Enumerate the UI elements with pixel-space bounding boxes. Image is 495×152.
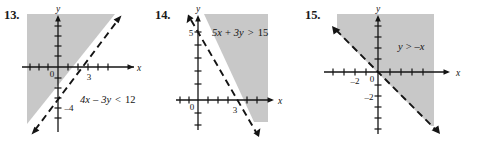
ineq-lhs-a-13: 4x xyxy=(80,94,90,105)
y-intercept-label-13: –4 xyxy=(64,103,75,113)
y-tick-label-15: –2 xyxy=(364,92,374,102)
problem-panel-14: 14. xyxy=(150,0,300,152)
y-intercept-label-14: 5 xyxy=(189,28,194,38)
y-axis-label-14: y xyxy=(195,4,201,14)
inequality-label-14: 5x+3y>15 xyxy=(212,27,268,38)
ineq-lhs-a-15: y xyxy=(397,41,403,52)
ineq-op1-14: + xyxy=(225,27,231,38)
ineq-rhs-15: –x xyxy=(414,41,425,52)
x-axis-label-13: x xyxy=(136,63,142,73)
x-intercept-label-13: 3 xyxy=(87,72,92,82)
origin-label-15: 0 xyxy=(370,74,375,84)
graph-15: x y 0 –2 –2 y>–x xyxy=(324,6,484,142)
problem-panel-13: 13. xyxy=(0,0,150,152)
boundary-arrow-downright-15 xyxy=(432,125,440,134)
ineq-rhs-13: 12 xyxy=(125,94,136,105)
inequality-label-13: 4x–3y<12 xyxy=(80,94,136,105)
shaded-region-15 xyxy=(336,14,434,128)
ineq-relation-14: > xyxy=(248,27,254,38)
problem-number-13: 13. xyxy=(4,8,19,23)
problem-number-15: 15. xyxy=(305,8,320,23)
x-axis-arrow-14 xyxy=(268,97,275,103)
x-axis-arrow-13 xyxy=(128,64,135,70)
ineq-lhs-b-13: 3y xyxy=(100,94,111,105)
y-axis-label-15: y xyxy=(375,4,381,14)
x-intercept-label-14: 3 xyxy=(233,105,238,115)
ineq-op1-13: – xyxy=(92,94,99,105)
x-axis-label-14: x xyxy=(277,96,283,106)
inequality-label-15: y>–x xyxy=(397,41,425,52)
problem-panel-15: 15. xyxy=(300,0,495,152)
ineq-lhs-b-14: 3y xyxy=(233,27,244,38)
x-axis-arrow-15 xyxy=(444,69,451,75)
graph-14: x y 0 5 3 5x+3y>15 xyxy=(168,6,296,140)
ineq-rhs-14: 15 xyxy=(258,27,269,38)
origin-label-14: 0 xyxy=(190,102,195,112)
ineq-lhs-a-14: 5x xyxy=(212,27,222,38)
ineq-relation-15: > xyxy=(406,41,412,52)
y-axis-label-13: y xyxy=(55,4,61,14)
graph-13: x y 0 3 –4 4x–3y<12 xyxy=(22,6,148,140)
origin-label-13: 0 xyxy=(50,69,55,79)
x-axis-label-15: x xyxy=(455,68,461,78)
ineq-relation-13: < xyxy=(115,94,121,105)
boundary-arrow-down-13 xyxy=(32,127,40,135)
x-tick-label-15: –2 xyxy=(350,76,360,86)
